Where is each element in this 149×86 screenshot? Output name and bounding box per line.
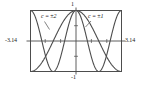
cosine-family-figure: 1 -1 -3.14 3.14 c = ±2 c = ±1 bbox=[0, 0, 149, 86]
x-min-label: -3.14 bbox=[5, 37, 17, 44]
y-max-label: 1 bbox=[71, 1, 74, 8]
curve-annotation-c2: c = ±2 bbox=[41, 13, 56, 20]
x-max-label: 3.14 bbox=[125, 37, 135, 44]
y-min-label: -1 bbox=[71, 74, 76, 81]
curve-annotation-c1: c = ±1 bbox=[88, 13, 103, 20]
